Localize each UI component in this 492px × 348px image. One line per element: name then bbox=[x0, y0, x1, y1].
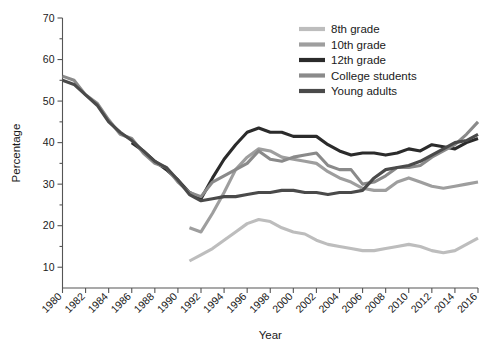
legend-label-young-adults: Young adults bbox=[331, 85, 397, 97]
x-tick-label: 1984 bbox=[85, 290, 110, 315]
x-tick-label: 1980 bbox=[39, 290, 64, 315]
legend-label-college-students: College students bbox=[331, 70, 417, 82]
legend-label-12th-grade: 12th grade bbox=[331, 54, 386, 66]
x-tick-label: 2014 bbox=[431, 290, 456, 315]
x-tick-label: 2010 bbox=[385, 290, 410, 315]
x-tick-label: 1994 bbox=[200, 290, 225, 315]
x-tick-label: 1998 bbox=[247, 290, 272, 315]
x-tick-label: 1990 bbox=[154, 290, 179, 315]
series-line-10th-grade bbox=[189, 149, 478, 232]
y-tick-label: 60 bbox=[43, 53, 55, 65]
x-tick-label: 1986 bbox=[108, 290, 133, 315]
x-tick-label: 2000 bbox=[270, 290, 295, 315]
line-chart: 1020304050607019801982198419861988199019… bbox=[0, 0, 492, 348]
x-tick-label: 2006 bbox=[339, 290, 364, 315]
legend-label-8th-grade: 8th grade bbox=[331, 23, 380, 35]
chart-legend: 8th grade10th grade12th gradeCollege stu… bbox=[299, 23, 417, 97]
legend-label-10th-grade: 10th grade bbox=[331, 39, 386, 51]
y-tick-label: 70 bbox=[43, 12, 55, 24]
x-tick-label: 1982 bbox=[62, 290, 87, 315]
series-line-8th-grade bbox=[189, 219, 478, 261]
y-axis-title: Percentage bbox=[10, 124, 22, 183]
x-tick-label: 2008 bbox=[362, 290, 387, 315]
chart-canvas: 1020304050607019801982198419861988199019… bbox=[0, 0, 492, 348]
x-tick-label: 1996 bbox=[224, 290, 249, 315]
x-axis-title: Year bbox=[259, 329, 282, 341]
y-tick-label: 40 bbox=[43, 136, 55, 148]
y-tick-label: 50 bbox=[43, 95, 55, 107]
y-tick-label: 20 bbox=[43, 219, 55, 231]
x-tick-label: 2002 bbox=[293, 290, 318, 315]
series-line-young-adults bbox=[63, 80, 479, 200]
y-tick-label: 10 bbox=[43, 261, 55, 273]
x-tick-label: 1992 bbox=[177, 290, 202, 315]
x-tick-label: 2012 bbox=[408, 290, 433, 315]
series-lines bbox=[63, 76, 479, 261]
y-tick-label: 30 bbox=[43, 178, 55, 190]
x-tick-label: 1988 bbox=[131, 290, 156, 315]
x-tick-label: 2016 bbox=[454, 290, 479, 315]
x-tick-label: 2004 bbox=[316, 290, 341, 315]
